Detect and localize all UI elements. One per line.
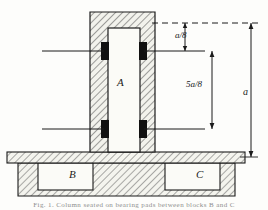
figure-caption: Fig. 1. Column seated on bearing pads be… [0, 201, 268, 210]
figure-cross-section: A B C a/8 5a/8 a Fig. 1. Column seated o… [0, 0, 268, 210]
part-label-C: C [196, 169, 203, 180]
dimension-label-5a-over-8: 5a/8 [186, 80, 202, 89]
dimension-label-a-overall: a [243, 87, 248, 97]
column-inner-core [108, 28, 140, 152]
dimension-label-a-over-8: a/8 [175, 31, 187, 40]
part-label-A: A [117, 77, 124, 88]
technical-drawing-canvas [0, 0, 268, 210]
part-label-B: B [69, 169, 76, 180]
block-C-pocket [165, 163, 220, 190]
dimension-line-5a-over-8 [210, 51, 215, 129]
base-plate [7, 152, 245, 163]
block-B-pocket [38, 163, 93, 190]
